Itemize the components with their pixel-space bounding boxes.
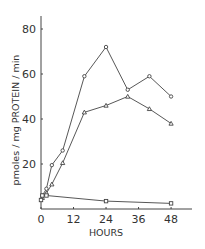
x-tick-label: 24 <box>99 213 113 226</box>
circle-marker <box>148 75 151 78</box>
triangle-marker <box>82 110 86 114</box>
series-squares <box>39 194 172 205</box>
square-marker <box>45 194 48 197</box>
line-chart: 01224364820406080 HOURS pmoles / mg PROT… <box>0 0 205 249</box>
x-tick-label: 12 <box>67 213 81 226</box>
triangle-marker <box>104 103 108 107</box>
triangle-marker <box>147 107 151 111</box>
square-marker <box>104 199 107 202</box>
series-triangles <box>40 94 173 199</box>
circle-marker <box>169 95 172 98</box>
x-axis-title: HOURS <box>89 227 123 238</box>
triangle-marker <box>50 182 54 186</box>
y-tick-label: 20 <box>22 158 36 171</box>
y-tick-label: 40 <box>22 113 36 126</box>
series-circles <box>41 45 173 197</box>
series-line <box>42 47 171 196</box>
square-marker <box>39 198 42 201</box>
triangle-marker <box>61 161 65 165</box>
circle-marker <box>104 45 107 48</box>
x-tick-label: 36 <box>132 213 146 226</box>
circle-marker <box>83 75 86 78</box>
x-tick-label: 0 <box>38 213 45 226</box>
series-line <box>42 97 171 198</box>
square-marker <box>169 202 172 205</box>
triangle-marker <box>126 94 130 98</box>
circle-marker <box>126 88 129 91</box>
circle-marker <box>45 187 48 190</box>
y-tick-label: 60 <box>22 68 36 81</box>
series-layer <box>39 45 173 205</box>
circle-marker <box>61 149 64 152</box>
square-marker <box>41 194 44 197</box>
circle-marker <box>50 163 53 166</box>
x-tick-label: 48 <box>164 213 178 226</box>
y-tick-label: 80 <box>22 23 36 36</box>
y-axis-title: pmoles / mg PROTEIN / min <box>10 55 21 186</box>
